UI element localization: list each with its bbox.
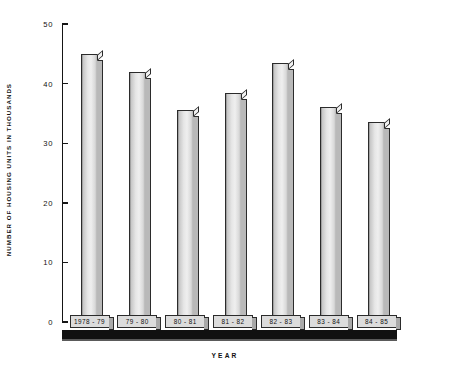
bar-front-face bbox=[225, 93, 242, 322]
bar-front-face bbox=[129, 72, 146, 322]
bar-side-face bbox=[97, 60, 103, 322]
y-axis-tick: 10 bbox=[62, 262, 68, 263]
y-axis-title-label: NUMBER OF HOUSING UNITS IN THOUSANDS bbox=[5, 83, 12, 256]
bar-front-face bbox=[368, 122, 385, 322]
bar-side-face bbox=[384, 128, 390, 322]
bar-side-face bbox=[241, 99, 247, 322]
y-axis-tick: 20 bbox=[62, 202, 68, 203]
y-axis-tick-label: 40 bbox=[43, 79, 53, 88]
y-axis-tick-label: 20 bbox=[43, 198, 53, 207]
category-label: 81 - 82 bbox=[213, 315, 253, 328]
category-label-side bbox=[348, 317, 353, 330]
bar bbox=[368, 122, 385, 322]
bar-front-face bbox=[81, 54, 98, 322]
category-label: 1978 - 79 bbox=[70, 315, 110, 328]
category-label-side bbox=[156, 317, 161, 330]
y-axis-tick-label: 30 bbox=[43, 139, 53, 148]
bar bbox=[272, 63, 289, 322]
category-label: 80 - 81 bbox=[165, 315, 205, 328]
bar bbox=[81, 54, 98, 322]
y-axis-tick: 30 bbox=[62, 143, 68, 144]
bar-front-face bbox=[272, 63, 289, 322]
bar bbox=[129, 72, 146, 322]
bar bbox=[177, 110, 194, 322]
bar bbox=[225, 93, 242, 322]
bar-side-face bbox=[336, 113, 342, 322]
category-label-side bbox=[396, 317, 401, 330]
category-label-side bbox=[204, 317, 209, 330]
bar-front-face bbox=[177, 110, 194, 322]
bar-side-face bbox=[193, 116, 199, 322]
bar bbox=[320, 107, 337, 322]
category-label: 84 - 85 bbox=[357, 315, 397, 328]
baseline-ground-shadow bbox=[62, 339, 397, 341]
category-label-side bbox=[109, 317, 114, 330]
y-axis-tick: 40 bbox=[62, 83, 68, 84]
category-label: 82 - 83 bbox=[261, 315, 301, 328]
y-axis-tick-label: 50 bbox=[43, 20, 53, 29]
bar-side-face bbox=[288, 69, 294, 322]
plot-area: 01020304050 bbox=[62, 24, 397, 322]
baseline-ground bbox=[62, 330, 397, 339]
category-label-side bbox=[252, 317, 257, 330]
y-axis-tick-label: 0 bbox=[48, 317, 53, 326]
y-axis-title: NUMBER OF HOUSING UNITS IN THOUSANDS bbox=[0, 0, 16, 340]
category-label-side bbox=[300, 317, 305, 330]
bar-front-face bbox=[320, 107, 337, 322]
y-axis-line bbox=[62, 24, 63, 322]
y-axis-tick-label: 10 bbox=[43, 258, 53, 267]
bar-side-face bbox=[145, 78, 151, 322]
bar-chart: NUMBER OF HOUSING UNITS IN THOUSANDS 010… bbox=[0, 0, 450, 377]
category-label: 79 - 80 bbox=[117, 315, 157, 328]
y-axis-tick: 50 bbox=[62, 23, 68, 24]
y-axis-tick: 0 bbox=[62, 321, 68, 322]
x-axis-title: YEAR bbox=[0, 352, 450, 359]
category-label: 83 - 84 bbox=[309, 315, 349, 328]
